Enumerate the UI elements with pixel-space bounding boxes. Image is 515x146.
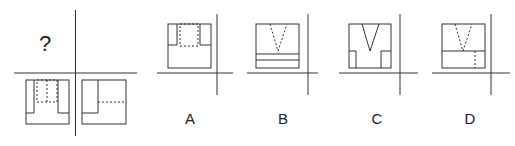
question-mark: ? xyxy=(39,31,51,56)
option-b-label[interactable]: B xyxy=(278,110,288,127)
given-view-right xyxy=(82,80,126,124)
option-d-label[interactable]: D xyxy=(465,110,476,127)
option-c-label[interactable]: C xyxy=(372,110,383,127)
option-a[interactable] xyxy=(157,14,233,95)
option-b[interactable] xyxy=(247,14,318,95)
question-panel xyxy=(14,10,137,136)
puzzle-canvas: ? A B C D xyxy=(0,0,515,146)
option-d[interactable] xyxy=(432,14,510,95)
given-view-left xyxy=(26,80,69,124)
option-c[interactable] xyxy=(339,14,418,95)
option-a-label[interactable]: A xyxy=(185,110,195,127)
